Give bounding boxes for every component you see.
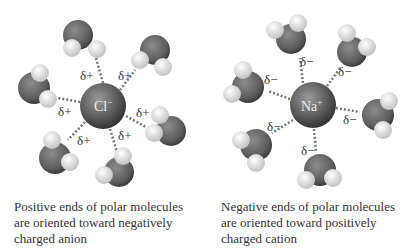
- svg-text:δ−: δ−: [264, 72, 277, 87]
- caption-cation: Negative ends of polar molecules are ori…: [221, 199, 420, 247]
- water-molecule: [18, 64, 57, 108]
- caption-line: are oriented toward negatively: [14, 215, 214, 231]
- svg-text:δ+: δ+: [118, 68, 131, 83]
- water-molecule: [95, 147, 134, 187]
- water-molecule: [223, 61, 264, 103]
- water-molecule: [131, 35, 172, 76]
- caption-anion: Positive ends of polar molecules are ori…: [14, 199, 214, 247]
- caption-line: Positive ends of polar molecules: [14, 199, 214, 215]
- caption-line: charged cation: [221, 231, 420, 247]
- svg-text:δ−: δ−: [267, 119, 280, 134]
- water-molecule: [297, 154, 342, 189]
- water-molecule: [145, 106, 186, 146]
- svg-text:δ+: δ+: [77, 133, 90, 148]
- svg-text:δ−: δ−: [300, 54, 313, 69]
- svg-text:δ+: δ+: [136, 105, 149, 120]
- water-molecule: [39, 131, 79, 174]
- water-molecule: [266, 14, 307, 54]
- svg-text:δ−: δ−: [338, 64, 351, 79]
- caption-line: charged anion: [14, 231, 214, 247]
- caption-line: Negative ends of polar molecules: [221, 199, 420, 215]
- svg-text:δ−: δ−: [301, 143, 314, 158]
- svg-text:δ+: δ+: [58, 104, 71, 119]
- svg-text:δ−: δ−: [343, 112, 356, 127]
- water-molecule: [337, 24, 376, 67]
- caption-line: are oriented toward positively: [221, 215, 420, 231]
- svg-text:δ+: δ+: [118, 128, 131, 143]
- water-molecule: [362, 92, 398, 139]
- water-molecule: [232, 129, 272, 172]
- water-molecule: [63, 20, 106, 58]
- svg-text:δ+: δ+: [80, 68, 93, 83]
